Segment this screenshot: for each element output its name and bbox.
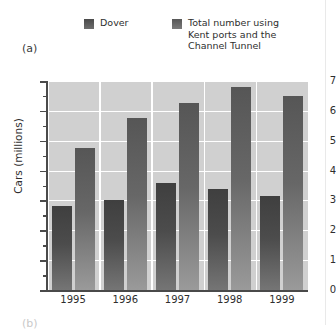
x-axis-line (46, 290, 308, 292)
x-tick-label: 1996 (102, 294, 148, 305)
y-tick-minor (43, 156, 47, 158)
y-tick-label: 6 (298, 105, 336, 116)
gridline-vertical (99, 81, 101, 290)
gridline-vertical (256, 81, 258, 290)
y-tick-label: 4 (298, 165, 336, 176)
x-tick-label: 1998 (207, 294, 253, 305)
y-axis-title: Cars (millions) (12, 86, 24, 226)
y-tick-major (40, 141, 47, 143)
y-tick-label: 1 (298, 254, 336, 265)
y-tick-major (40, 260, 47, 262)
y-tick-major (40, 290, 47, 292)
x-tick-label: 1997 (155, 294, 201, 305)
y-tick-label: 2 (298, 224, 336, 235)
bar-1997-total (179, 103, 199, 290)
plot-area (47, 81, 308, 290)
gridline-horizontal (47, 141, 308, 142)
bar-1996-dover (104, 200, 124, 290)
bar-1999-dover (260, 196, 280, 290)
y-tick-minor (43, 186, 47, 188)
y-tick-label: 7 (298, 75, 336, 86)
x-tick-label: 1999 (259, 294, 305, 305)
next-panel-label: (b) (22, 317, 38, 330)
bar-1995-total (75, 148, 95, 290)
bar-1998-total (231, 87, 251, 290)
y-tick-major (40, 200, 47, 202)
x-tick-label: 1995 (50, 294, 96, 305)
bar-1996-total (127, 118, 147, 290)
bar-1995-dover (52, 206, 72, 290)
y-tick-minor (43, 215, 47, 217)
y-tick-minor (43, 126, 47, 128)
y-tick-major (40, 171, 47, 173)
bar-1997-dover (156, 183, 176, 290)
y-tick-major (40, 81, 47, 83)
gridline-horizontal (47, 111, 308, 112)
y-tick-label: 5 (298, 135, 336, 146)
y-tick-minor (43, 245, 47, 247)
gridline-vertical (151, 81, 153, 290)
y-tick-label: 3 (298, 194, 336, 205)
y-tick-minor (43, 275, 47, 277)
y-tick-minor (43, 96, 47, 98)
y-tick-major (40, 230, 47, 232)
bar-1998-dover (208, 189, 228, 291)
gridline-horizontal (47, 81, 308, 82)
gridline-vertical (204, 81, 206, 290)
y-tick-major (40, 111, 47, 113)
